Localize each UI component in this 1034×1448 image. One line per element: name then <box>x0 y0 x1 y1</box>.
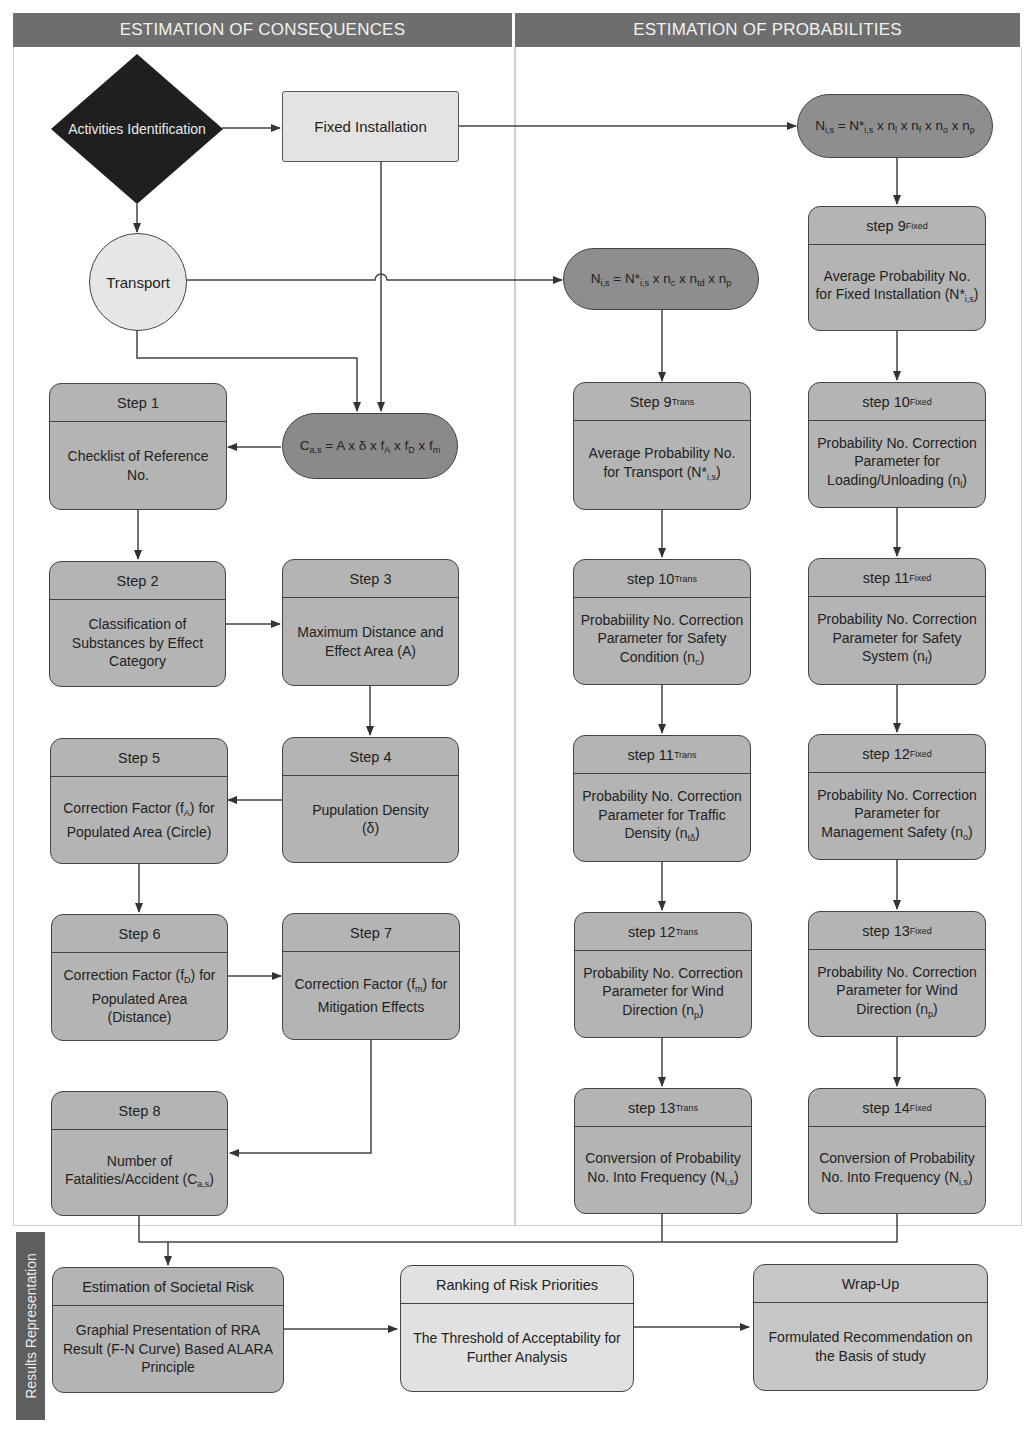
step-title-subscript: Trans <box>674 750 697 760</box>
step-4-box[interactable]: Step 4Pupulation Density(δ) <box>282 737 459 863</box>
step-6-box[interactable]: Step 6Correction Factor (fD) for Populat… <box>51 914 228 1041</box>
step-1-box[interactable]: Step 1Checklist of Reference No. <box>49 383 227 510</box>
step-body-text: Probabiility No. Correction Parameter fo… <box>580 611 744 672</box>
step-body: Number of Fatalities/Accident (Ca,s) <box>52 1130 227 1215</box>
step-body: Average Probability No. for Transport (N… <box>574 421 750 509</box>
activities-identification-diamond[interactable]: Activities Identification <box>51 54 223 204</box>
step-9-trans-box[interactable]: Step 9TransAverage Probability No. for T… <box>573 382 751 510</box>
formula-subscript: l <box>895 125 897 135</box>
step-body-subscript: i,s <box>965 294 974 304</box>
step-body-subscript: a,s <box>197 1179 209 1189</box>
step-title-subscript: Trans <box>675 1103 698 1113</box>
ranking-risk-priorities-box[interactable]: Ranking of Risk PrioritiesThe Threshold … <box>400 1265 634 1392</box>
step-2-box[interactable]: Step 2Classification of Substances by Ef… <box>49 561 226 687</box>
step-body-subscript: i,s <box>959 1177 968 1187</box>
step-body-subscript: o <box>963 832 968 842</box>
step-title: Wrap-Up <box>754 1265 987 1303</box>
step-title-subscript: Trans <box>672 397 695 407</box>
step-title: step 10Fixed <box>809 383 985 421</box>
step-14-fixed-box[interactable]: step 14FixedConversion of Probability No… <box>808 1088 986 1214</box>
formula-subscript: m <box>433 445 441 455</box>
step-body-text: Correction Factor (fm) for Mitigation Ef… <box>289 975 453 1017</box>
step-body-text: Average Probability No. for Transport (N… <box>580 444 744 486</box>
step-12-fixed-box[interactable]: step 12FixedProbability No. Correction P… <box>808 734 986 860</box>
step-body: Correction Factor (fm) for Mitigation Ef… <box>283 952 459 1039</box>
step-body-subscript: c <box>695 657 700 667</box>
step-title: Step 4 <box>283 738 458 776</box>
step-title: step 11Fixed <box>809 559 985 597</box>
step-body: Probability No. Correction Parameter for… <box>809 773 985 859</box>
step-body: The Threshold of Acceptability for Furth… <box>401 1304 633 1391</box>
step-title: step 13Fixed <box>809 912 985 950</box>
step-10-fixed-box[interactable]: step 10FixedProbability No. Correction P… <box>808 382 986 508</box>
step-11-fixed-box[interactable]: step 11FixedProbability No. Correction P… <box>808 558 986 685</box>
step-body-text: Checklist of Reference No. <box>56 447 220 484</box>
step-body-text: Maximum Distance and Effect Area (A) <box>289 623 452 660</box>
formula-text: Ni,s = N*i,s x nl x nf x no x np <box>815 118 975 135</box>
step-body: Classification of Substances by Effect C… <box>50 600 225 686</box>
step-body: Probability No. Correction Parameter for… <box>574 774 750 861</box>
step-body-text: Pupulation Density(δ) <box>312 801 429 838</box>
step-body-subscript: tδ <box>687 833 695 843</box>
header-estimation-of-probabilities: ESTIMATION OF PROBABILITIES <box>515 13 1020 47</box>
step-title: step 12Fixed <box>809 735 985 773</box>
step-body-subscript: m <box>415 984 423 994</box>
step-7-box[interactable]: Step 7Correction Factor (fm) for Mitigat… <box>282 913 460 1040</box>
step-title-subscript: Trans <box>675 927 698 937</box>
step-body: Correction Factor (fA) for Populated Are… <box>51 777 227 863</box>
step-title: Step 5 <box>51 739 227 777</box>
step-body-text: Probability No. Correction Parameter for… <box>580 787 744 848</box>
step-body-text: Probability No. Correction Parameter for… <box>581 964 745 1025</box>
step-10-trans-box[interactable]: step 10TransProbabiility No. Correction … <box>573 559 751 685</box>
side-label-text: Results Representation <box>23 1253 39 1399</box>
step-title-subscript: Fixed <box>906 221 928 231</box>
step-body-text: Classification of Substances by Effect C… <box>56 615 219 671</box>
fixed-installation-label: Fixed Installation <box>314 118 427 135</box>
step-body-text: Conversion of Probability No. Into Frequ… <box>581 1149 745 1191</box>
activities-identification-label: Activities Identification <box>51 54 223 204</box>
fixed-installation-node[interactable]: Fixed Installation <box>282 91 459 162</box>
step-9-fixed-box[interactable]: step 9FixedAverage Probability No. for F… <box>808 206 986 331</box>
step-body-subscript: i,s <box>725 1177 734 1187</box>
step-body: Correction Factor (fD) for Populated Are… <box>52 953 227 1040</box>
formula-subscript: i,s <box>601 278 610 288</box>
step-title: Step 7 <box>283 914 459 952</box>
step-title: Estimation of Societal Risk <box>53 1268 283 1306</box>
formula-transport-probability: Ni,s = N*i,s x nc x ntd x np <box>563 248 759 310</box>
formula-text: Ni,s = N*i,s x nc x ntd x np <box>591 271 731 288</box>
step-title: Ranking of Risk Priorities <box>401 1266 633 1304</box>
step-8-box[interactable]: Step 8Number of Fatalities/Accident (Ca,… <box>51 1091 228 1216</box>
wrap-up-box[interactable]: Wrap-UpFormulated Recommendation on the … <box>753 1264 988 1391</box>
step-body-text: Graphial Presentation of RRA Result (F-N… <box>59 1321 277 1377</box>
step-5-box[interactable]: Step 5Correction Factor (fA) for Populat… <box>50 738 228 864</box>
step-13-trans-box[interactable]: step 13TransConversion of Probability No… <box>574 1088 752 1214</box>
step-body: Checklist of Reference No. <box>50 422 226 509</box>
step-body: Graphial Presentation of RRA Result (F-N… <box>53 1306 283 1392</box>
transport-node[interactable]: Transport <box>89 233 187 331</box>
step-body-text: Number of Fatalities/Accident (Ca,s) <box>58 1152 221 1194</box>
step-title: Step 2 <box>50 562 225 600</box>
step-body-text: Correction Factor (fD) for Populated Are… <box>58 966 221 1027</box>
step-body: Formulated Recommendation on the Basis o… <box>754 1303 987 1390</box>
step-3-box[interactable]: Step 3Maximum Distance and Effect Area (… <box>282 559 459 686</box>
step-11-trans-box[interactable]: step 11TransProbability No. Correction P… <box>573 735 751 862</box>
step-13-fixed-box[interactable]: step 13FixedProbability No. Correction P… <box>808 911 986 1037</box>
step-body: Pupulation Density(δ) <box>283 776 458 862</box>
step-body-text: Probability No. Correction Parameter for… <box>815 963 979 1024</box>
step-body: Conversion of Probability No. Into Frequ… <box>575 1127 751 1213</box>
header-estimation-of-consequences: ESTIMATION OF CONSEQUENCES <box>13 13 512 47</box>
step-title: Step 8 <box>52 1092 227 1130</box>
step-title: Step 1 <box>50 384 226 422</box>
step-title-subscript: Fixed <box>910 1103 932 1113</box>
step-title: step 11Trans <box>574 736 750 774</box>
societal-risk-box[interactable]: Estimation of Societal RiskGraphial Pres… <box>52 1267 284 1393</box>
step-title: Step 3 <box>283 560 458 598</box>
step-12-trans-box[interactable]: step 12TransProbability No. Correction P… <box>574 912 752 1038</box>
step-body-text: Probability No. Correction Parameter for… <box>815 786 979 847</box>
step-body-subscript: i,s <box>707 472 716 482</box>
step-body-subscript: p <box>928 1009 933 1019</box>
formula-subscript: D <box>408 445 415 455</box>
step-body-subscript: p <box>694 1010 699 1020</box>
step-title: step 14Fixed <box>809 1089 985 1127</box>
step-title: step 9Fixed <box>809 207 985 245</box>
